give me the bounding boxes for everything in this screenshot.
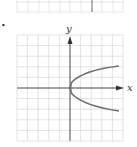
top-partial-grid xyxy=(17,0,123,12)
y-axis-label: y xyxy=(65,23,72,34)
x-axis-label: x xyxy=(127,82,133,93)
y-axis-arrow-icon xyxy=(68,36,73,44)
problem-bullet: • xyxy=(1,21,6,30)
graph: x y • xyxy=(0,0,137,147)
parabola-curve xyxy=(71,66,120,111)
